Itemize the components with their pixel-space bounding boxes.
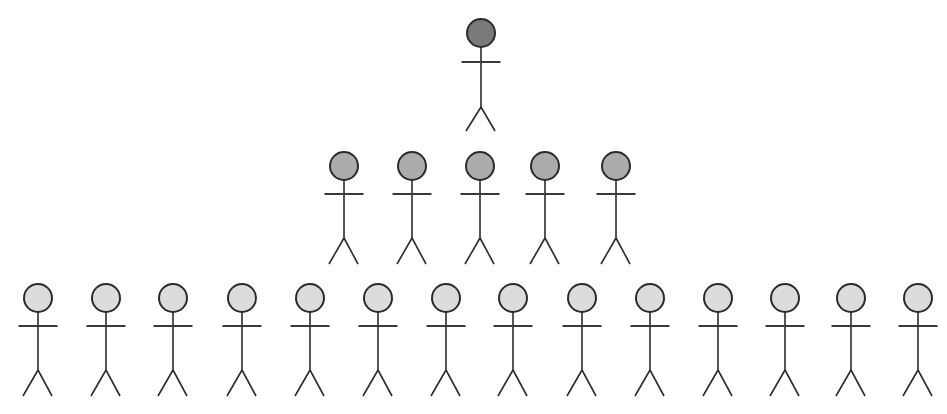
left-leg [466,107,481,131]
person-icon [461,152,500,264]
head [467,19,495,47]
head [636,284,664,312]
left-leg [903,370,918,396]
right-leg [480,238,494,264]
head [296,284,324,312]
right-leg [785,370,799,396]
right-leg [582,370,596,396]
right-leg [545,238,559,264]
left-leg [498,370,513,396]
head [704,284,732,312]
head [531,152,559,180]
head [568,284,596,312]
right-leg [310,370,324,396]
right-leg [718,370,732,396]
person-icon [325,152,364,264]
person-icon [832,284,871,396]
person-icon [154,284,193,396]
head [466,152,494,180]
person-icon [766,284,805,396]
left-leg [530,238,545,264]
person-icon [899,284,938,396]
head [771,284,799,312]
left-leg [770,370,785,396]
right-leg [344,238,358,264]
head [904,284,932,312]
head [432,284,460,312]
head [364,284,392,312]
person-icon [699,284,738,396]
person-icon [597,152,636,264]
right-leg [513,370,527,396]
right-leg [446,370,460,396]
hierarchy-diagram [0,0,947,414]
left-leg [431,370,446,396]
person-icon [393,152,432,264]
left-leg [363,370,378,396]
head [602,152,630,180]
left-leg [567,370,582,396]
right-leg [650,370,664,396]
head [398,152,426,180]
person-icon [223,284,262,396]
level-bottom [19,284,938,396]
person-icon [631,284,670,396]
right-leg [106,370,120,396]
person-icon [291,284,330,396]
person-icon [494,284,533,396]
head [24,284,52,312]
head [499,284,527,312]
right-leg [851,370,865,396]
left-leg [158,370,173,396]
head [228,284,256,312]
left-leg [329,238,344,264]
person-icon [563,284,602,396]
person-icon [19,284,58,396]
right-leg [918,370,932,396]
right-leg [173,370,187,396]
left-leg [23,370,38,396]
level-top [462,19,501,131]
person-icon [462,19,501,131]
person-icon [359,284,398,396]
right-leg [616,238,630,264]
stick-figure-pyramid [0,0,947,414]
right-leg [412,238,426,264]
level-middle [325,152,636,264]
left-leg [397,238,412,264]
left-leg [601,238,616,264]
person-icon [87,284,126,396]
left-leg [295,370,310,396]
left-leg [465,238,480,264]
head [330,152,358,180]
left-leg [91,370,106,396]
person-icon [526,152,565,264]
person-icon [427,284,466,396]
right-leg [242,370,256,396]
left-leg [836,370,851,396]
right-leg [378,370,392,396]
head [92,284,120,312]
left-leg [635,370,650,396]
head [159,284,187,312]
right-leg [481,107,495,131]
left-leg [227,370,242,396]
head [837,284,865,312]
left-leg [703,370,718,396]
right-leg [38,370,52,396]
